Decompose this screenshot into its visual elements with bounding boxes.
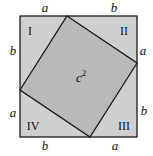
side-label-left-top: b	[10, 43, 17, 58]
region-label-I: I	[28, 24, 32, 38]
region-label-III: III	[118, 119, 130, 133]
side-label-bottom-right: a	[112, 138, 119, 153]
side-label-top-left: a	[42, 0, 49, 15]
region-label-IV: IV	[27, 119, 40, 133]
side-label-left-bottom: a	[10, 105, 17, 120]
side-label-right-top: a	[140, 43, 147, 58]
side-label-right-bottom: b	[141, 103, 148, 118]
c-exponent: 2	[82, 68, 87, 78]
side-label-top-right: b	[111, 0, 118, 15]
side-label-bottom-left: b	[42, 138, 49, 153]
pythagorean-proof-diagram: I II III IV c2 a b a b a b a b	[0, 0, 153, 156]
region-label-II: II	[120, 24, 128, 38]
